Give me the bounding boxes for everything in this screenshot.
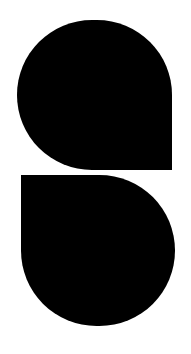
- top-teardrop-shape: [17, 20, 172, 170]
- bottom-teardrop-shape: [21, 175, 175, 326]
